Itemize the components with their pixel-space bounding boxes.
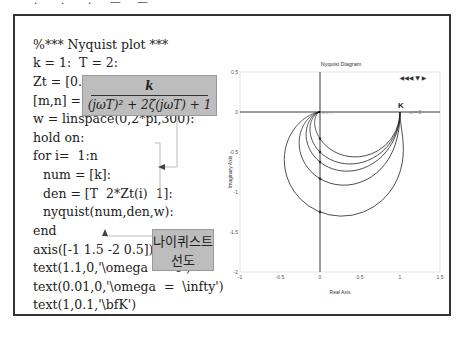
nyquist-curves (284, 112, 403, 216)
x-tick: -1 (238, 274, 243, 280)
x-tick: 0.5 (357, 274, 364, 280)
curve-marker (319, 151, 321, 153)
y-tick: -1.5 (229, 229, 238, 235)
curve-marker (319, 178, 321, 180)
y-axis-label: Imaginary Axis (227, 155, 233, 188)
annotation-omega-zero: ω = 0 (409, 109, 422, 115)
nyquist-curve (310, 112, 400, 164)
y-tick: 0.5 (231, 69, 238, 75)
y-tick: -1 (234, 189, 239, 195)
x-tick: 1 (399, 274, 402, 280)
x-tick-labels: -1-0.500.511.5 (238, 274, 444, 280)
axes-box (240, 72, 440, 272)
curve-marker (319, 161, 321, 163)
x-tick: 0 (319, 274, 322, 280)
nyquist-plot: Nyquist Diagram -1-0.500.511.5 0.50-0.5-… (0, 0, 465, 353)
x-tick: -0.5 (276, 274, 285, 280)
curve-marker (319, 211, 321, 213)
annotation-omega-infinity: ω = ∞ (322, 110, 333, 115)
y-tick: -2 (234, 269, 239, 275)
plot-toolbar-arrows-icon: ◀◀◀ ▼ ▶ (400, 74, 427, 81)
annotation-k: K (398, 101, 404, 110)
plot-title: Nyquist Diagram (321, 61, 362, 67)
curve-marker (319, 138, 321, 140)
y-tick: -0.5 (229, 149, 238, 155)
x-axis-label: Real Axis (330, 289, 351, 295)
x-tick: 1.5 (437, 274, 444, 280)
y-tick: 0 (235, 109, 238, 115)
